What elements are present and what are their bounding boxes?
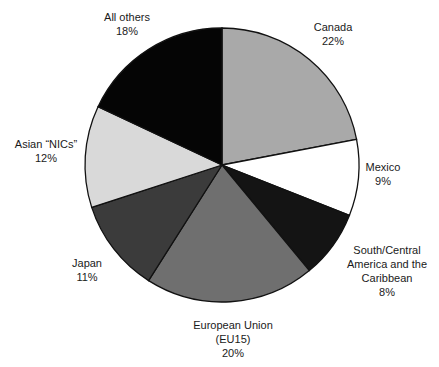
- slice-label: European Union(EU15)20%: [193, 318, 273, 360]
- slice-name: South/Central: [347, 243, 427, 257]
- slice-percent: 20%: [193, 346, 273, 360]
- slice-percent: 11%: [72, 270, 102, 284]
- slice-label: South/CentralAmerica and theCaribbean8%: [347, 243, 427, 299]
- slice-name: Mexico: [366, 160, 401, 174]
- slice-label: Japan11%: [72, 256, 102, 284]
- slice-percent: 22%: [314, 34, 353, 48]
- slice-label: Asian “NICs”12%: [15, 137, 77, 165]
- slice-percent: 12%: [15, 151, 77, 165]
- slice-label: Mexico9%: [366, 160, 401, 188]
- slice-name: Canada: [314, 20, 353, 34]
- slice-percent: 18%: [104, 24, 150, 38]
- slice-percent: 8%: [347, 285, 427, 299]
- slice-label: All others18%: [104, 10, 150, 38]
- slice-name: Caribbean: [347, 271, 427, 285]
- slice-label: Canada22%: [314, 20, 353, 48]
- slice-name: European Union: [193, 318, 273, 332]
- slice-name: (EU15): [193, 332, 273, 346]
- slice-name: Japan: [72, 256, 102, 270]
- slice-name: Asian “NICs”: [15, 137, 77, 151]
- slice-name: All others: [104, 10, 150, 24]
- pie-slices: [85, 28, 359, 302]
- slice-percent: 9%: [366, 174, 401, 188]
- slice-name: America and the: [347, 257, 427, 271]
